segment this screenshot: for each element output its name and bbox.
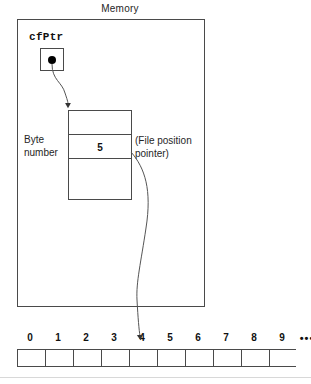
byte-number-label: Byte number	[24, 133, 68, 159]
file-structure-box: 5	[68, 110, 132, 200]
byte-index-9: 9	[268, 331, 296, 345]
file-structure-divider-bottom	[69, 158, 131, 159]
byte-number-label-line1: Byte	[24, 133, 68, 146]
byte-index-0: 0	[16, 331, 44, 345]
filled-dot-icon	[48, 56, 56, 64]
file-structure-divider-top	[69, 134, 131, 135]
byte-index-3: 3	[100, 331, 128, 345]
byte-index-7: 7	[212, 331, 240, 345]
file-position-pointer-annotation-line1: (File position	[135, 134, 209, 147]
bottom-rule	[0, 377, 311, 378]
byte-cell-separator	[213, 350, 214, 366]
byte-index-row: 0 1 2 3 4 5 6 7 8 9 •••	[17, 331, 296, 346]
byte-index-1: 1	[44, 331, 72, 345]
byte-cell-separator	[157, 350, 158, 366]
byte-index-2: 2	[72, 331, 100, 345]
byte-index-8: 8	[240, 331, 268, 345]
file-position-pointer-annotation: (File position pointer)	[135, 134, 209, 160]
byte-index-4: 4	[128, 331, 156, 345]
byte-index-6: 6	[184, 331, 212, 345]
byte-cell-separator	[185, 350, 186, 366]
byte-number-value: 5	[69, 136, 131, 158]
file-position-pointer-annotation-line2: pointer)	[135, 147, 209, 160]
file-position-pointer-diagram: Memory cfPtr 5 Byte number (File positio…	[0, 0, 311, 384]
byte-cell-separator	[73, 350, 74, 366]
byte-cell-separator	[45, 350, 46, 366]
memory-title: Memory	[80, 3, 160, 15]
byte-index-ellipsis: •••	[293, 331, 311, 345]
byte-cell-separator	[129, 350, 130, 366]
byte-array-strip	[17, 349, 296, 367]
byte-cell-separator	[101, 350, 102, 366]
byte-index-5: 5	[156, 331, 184, 345]
byte-cell-separator	[269, 350, 270, 366]
byte-number-label-line2: number	[24, 146, 68, 159]
cfptr-label: cfPtr	[29, 31, 64, 44]
byte-cell-separator	[241, 350, 242, 366]
